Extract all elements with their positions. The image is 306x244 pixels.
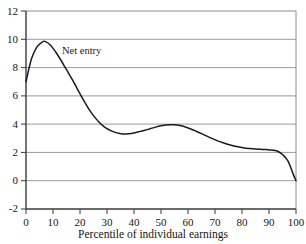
y-axis bbox=[21, 11, 26, 209]
x-tick-label-100: 100 bbox=[282, 217, 306, 228]
chart-figure: 12 10 8 6 4 2 0 -2 0 10 20 30 40 50 60 7… bbox=[0, 0, 306, 244]
y-tick-label-2: 2 bbox=[0, 147, 18, 158]
y-tick-label-4: 4 bbox=[0, 119, 18, 130]
y-tick-label-12: 12 bbox=[0, 6, 18, 17]
x-tick-label-50: 50 bbox=[147, 217, 175, 228]
y-tick-label-0: 0 bbox=[0, 175, 18, 186]
plot-frame bbox=[26, 11, 296, 209]
y-tick-label-10: 10 bbox=[0, 34, 18, 45]
x-tick-label-10: 10 bbox=[39, 217, 67, 228]
series-annotation-net-entry: Net entry bbox=[62, 45, 101, 56]
x-tick-label-80: 80 bbox=[228, 217, 256, 228]
x-tick-label-60: 60 bbox=[174, 217, 202, 228]
series-line-net-entry bbox=[26, 41, 296, 181]
x-tick-label-20: 20 bbox=[66, 217, 94, 228]
x-tick-label-40: 40 bbox=[120, 217, 148, 228]
x-tick-label-30: 30 bbox=[93, 217, 121, 228]
x-axis bbox=[26, 209, 296, 214]
y-tick-label-8: 8 bbox=[0, 62, 18, 73]
y-tick-label-neg2: -2 bbox=[0, 203, 18, 214]
x-tick-label-70: 70 bbox=[201, 217, 229, 228]
y-tick-label-6: 6 bbox=[0, 90, 18, 101]
chart-plot-area bbox=[0, 0, 306, 244]
x-tick-label-0: 0 bbox=[12, 217, 40, 228]
gridlines bbox=[26, 39, 296, 180]
x-axis-title: Percentile of individual earnings bbox=[0, 228, 306, 240]
x-tick-label-90: 90 bbox=[255, 217, 283, 228]
